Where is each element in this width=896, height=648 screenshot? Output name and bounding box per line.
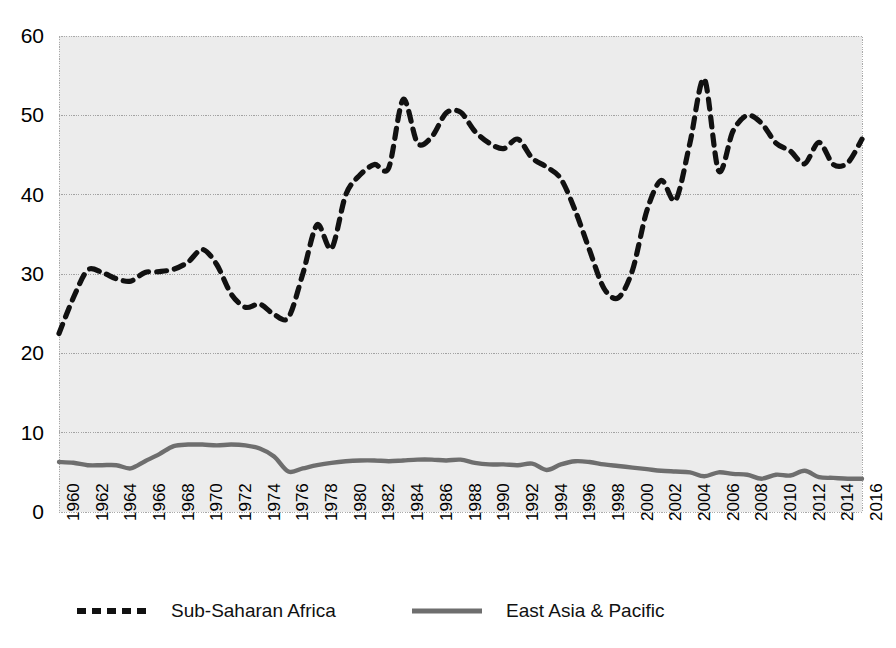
- x-tick-label: 2012: [811, 483, 828, 521]
- legend-entry-1[interactable]: Sub-Saharan Africa: [75, 600, 336, 622]
- x-tick-label: 2008: [753, 483, 770, 521]
- legend-entry-2[interactable]: East Asia & Pacific: [410, 600, 664, 622]
- x-tick-label: 1960: [65, 483, 82, 521]
- x-tick-label: 1994: [553, 483, 570, 521]
- x-tick-label: 1984: [409, 483, 426, 521]
- x-tick-label: 1972: [237, 483, 254, 521]
- chart-canvas: [0, 0, 896, 648]
- x-tick-label: 1968: [180, 483, 197, 521]
- x-tick-label: 1982: [380, 483, 397, 521]
- x-tick-label: 1978: [323, 483, 340, 521]
- y-tick-label: 0: [2, 501, 44, 522]
- y-tick-label: 60: [2, 25, 44, 46]
- x-tick-label: 1988: [467, 483, 484, 521]
- x-tick-label: 1992: [524, 483, 541, 521]
- x-tick-label: 1998: [610, 483, 627, 521]
- x-tick-label: 2004: [696, 483, 713, 521]
- legend-label: East Asia & Pacific: [506, 600, 664, 622]
- x-tick-label: 1990: [495, 483, 512, 521]
- x-tick-label: 1976: [294, 483, 311, 521]
- x-tick-label: 1966: [151, 483, 168, 521]
- y-tick-label: 30: [2, 263, 44, 284]
- chart-legend: Sub-Saharan AfricaEast Asia & Pacific: [60, 600, 860, 640]
- x-tick-label: 1996: [581, 483, 598, 521]
- y-tick-label: 20: [2, 342, 44, 363]
- x-tick-label: 1964: [122, 483, 139, 521]
- solid-line-icon: [410, 603, 484, 619]
- y-tick-label: 50: [2, 104, 44, 125]
- y-tick-label: 40: [2, 184, 44, 205]
- legend-label: Sub-Saharan Africa: [171, 600, 336, 622]
- x-tick-label: 2006: [725, 483, 742, 521]
- x-tick-label: 2016: [868, 483, 885, 521]
- x-tick-label: 1974: [266, 483, 283, 521]
- y-tick-label: 10: [2, 422, 44, 443]
- x-tick-label: 2014: [839, 483, 856, 521]
- x-tick-label: 2000: [639, 483, 656, 521]
- x-tick-label: 1970: [208, 483, 225, 521]
- x-tick-label: 1980: [352, 483, 369, 521]
- x-tick-label: 1962: [94, 483, 111, 521]
- x-tick-label: 1986: [438, 483, 455, 521]
- x-tick-label: 2002: [667, 483, 684, 521]
- dashed-line-icon: [75, 603, 149, 619]
- x-tick-label: 2010: [782, 483, 799, 521]
- chart-figure: 0102030405060 19601962196419661968197019…: [0, 0, 896, 648]
